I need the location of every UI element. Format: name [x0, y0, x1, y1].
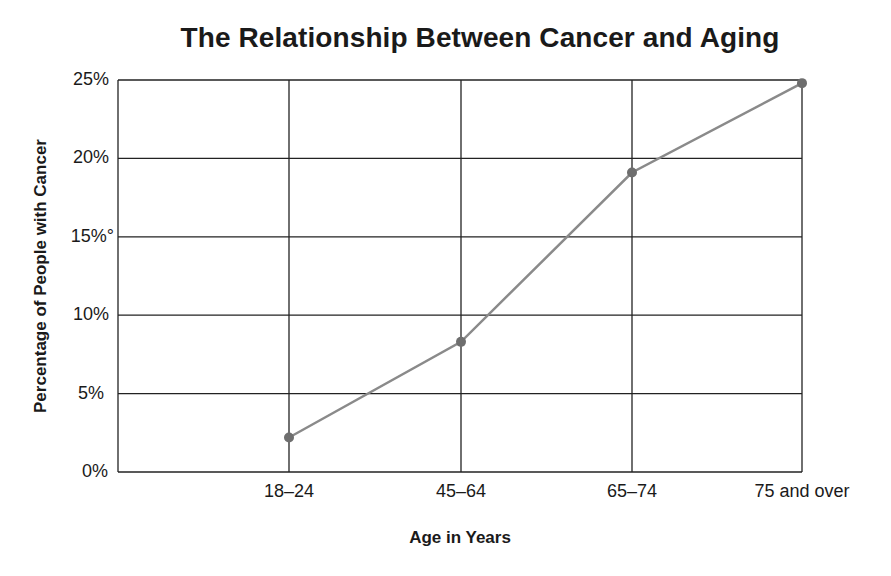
y-tick-label: 5% [44, 383, 104, 404]
data-line [289, 83, 802, 437]
x-tick-label: 65–74 [607, 481, 657, 502]
x-tick-label: 18–24 [264, 481, 314, 502]
y-tick-label: 25% [49, 69, 109, 90]
data-point [797, 78, 807, 88]
y-tick-label: 10% [49, 304, 109, 325]
y-tick-label: 0% [48, 461, 108, 482]
data-point [627, 168, 637, 178]
x-tick-label: 75 and over [754, 481, 849, 502]
data-point [284, 433, 294, 443]
x-tick-label: 45–64 [436, 481, 486, 502]
data-point [456, 337, 466, 347]
y-tick-label: 15%° [54, 226, 114, 247]
y-tick-label: 20% [49, 147, 109, 168]
